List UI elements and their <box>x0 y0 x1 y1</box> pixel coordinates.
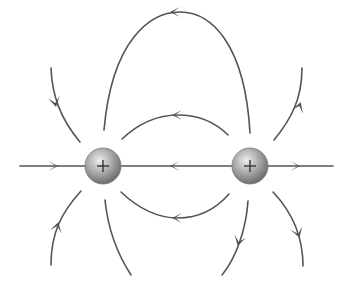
upper-inner-arch <box>122 110 228 139</box>
charge-right <box>232 148 268 184</box>
upper-left-curve <box>48 68 80 142</box>
lower-left-curve <box>50 191 81 265</box>
charge-left <box>85 148 121 184</box>
field-line-diagram <box>0 0 359 283</box>
arrow-up-icon <box>292 100 307 114</box>
top-outer-arch <box>104 7 250 133</box>
lower-right-curve-inner <box>222 201 248 275</box>
upper-right-curve <box>274 68 306 140</box>
lower-right-curve-outer <box>273 192 305 266</box>
lower-center-curve <box>105 200 131 275</box>
axis-field-lines <box>20 161 333 171</box>
lower-inner-arch <box>121 192 229 223</box>
